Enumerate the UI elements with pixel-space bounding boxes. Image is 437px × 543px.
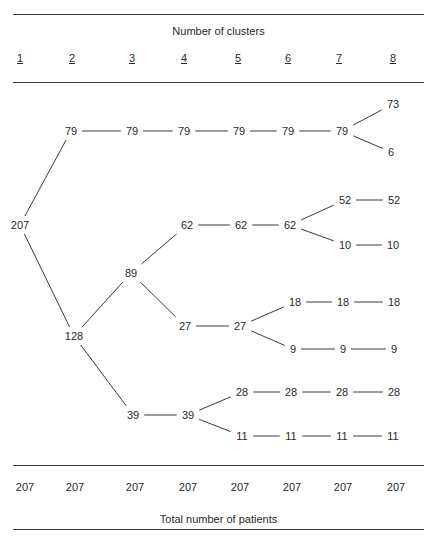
total-col-5: 207 — [231, 480, 249, 494]
tree-edge — [251, 331, 285, 346]
cluster-node: 27 — [234, 320, 246, 332]
cluster-node: 9 — [391, 343, 397, 355]
tree-edge — [24, 234, 69, 327]
tree-edge — [251, 307, 284, 321]
tree-edge — [301, 205, 334, 220]
cluster-node: 79 — [282, 125, 294, 137]
tree-edge — [353, 136, 383, 149]
tree-edges — [24, 110, 386, 436]
total-col-8: 207 — [387, 480, 405, 494]
cluster-tree: 2077912879893979622739796227281179621892… — [0, 0, 437, 543]
total-col-1: 207 — [16, 480, 34, 494]
cluster-node: 9 — [340, 343, 346, 355]
tree-edge — [25, 140, 66, 216]
cluster-node: 62 — [181, 219, 193, 231]
cluster-node: 28 — [336, 386, 348, 398]
cluster-node: 10 — [339, 239, 351, 251]
cluster-node: 28 — [285, 386, 297, 398]
bottom-rule — [13, 529, 424, 530]
cluster-node: 207 — [11, 219, 29, 231]
cluster-node: 11 — [236, 430, 247, 442]
cluster-node: 11 — [285, 430, 296, 442]
tree-nodes: 2077912879893979622739796227281179621892… — [11, 98, 400, 442]
total-col-7: 207 — [334, 480, 352, 494]
tree-edge — [301, 229, 334, 241]
cluster-node: 27 — [179, 320, 191, 332]
cluster-node: 52 — [388, 194, 400, 206]
tree-edge — [199, 397, 231, 410]
footer-top-rule — [13, 465, 424, 466]
cluster-node: 79 — [233, 125, 245, 137]
cluster-node: 18 — [388, 296, 400, 308]
cluster-node: 79 — [126, 125, 138, 137]
tree-edge — [81, 345, 127, 406]
cluster-node: 10 — [387, 239, 399, 251]
cluster-node: 18 — [337, 296, 349, 308]
cluster-node: 73 — [387, 98, 399, 110]
cluster-node: 11 — [387, 430, 398, 442]
total-col-2: 207 — [66, 480, 84, 494]
cluster-node: 39 — [182, 409, 194, 421]
cluster-node: 79 — [178, 125, 190, 137]
cluster-node: 11 — [336, 430, 347, 442]
cluster-node: 128 — [65, 330, 83, 342]
cluster-node: 79 — [65, 125, 77, 137]
tree-edge — [140, 282, 176, 317]
cluster-node: 89 — [125, 267, 137, 279]
tree-edge — [142, 234, 177, 264]
footer-caption: Total number of patients — [0, 512, 437, 526]
total-col-6: 207 — [283, 480, 301, 494]
cluster-node: 62 — [235, 219, 247, 231]
cluster-node: 6 — [388, 146, 394, 158]
cluster-node: 28 — [236, 386, 248, 398]
cluster-node: 39 — [127, 409, 139, 421]
cluster-node: 9 — [290, 343, 296, 355]
cluster-node: 62 — [284, 219, 296, 231]
tree-edge — [82, 282, 123, 327]
total-col-3: 207 — [126, 480, 144, 494]
cluster-node: 52 — [339, 194, 351, 206]
tree-edge — [353, 110, 382, 125]
total-col-4: 207 — [179, 480, 197, 494]
tree-edge — [199, 419, 231, 431]
cluster-node: 28 — [388, 386, 400, 398]
cluster-node: 79 — [336, 125, 348, 137]
cluster-node: 18 — [289, 296, 301, 308]
